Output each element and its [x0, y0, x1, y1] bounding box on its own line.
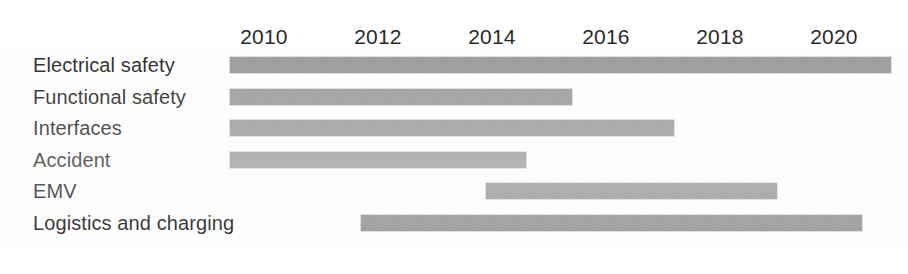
- gantt-bar-logistics-and-charging: [361, 215, 863, 231]
- gantt-bar-electrical-safety: [230, 57, 891, 73]
- gantt-bar-interfaces: [230, 120, 675, 136]
- gantt-bar-functional-safety: [230, 89, 572, 105]
- gantt-chart: 201020122014201620182020 Electrical safe…: [0, 0, 908, 274]
- gantt-bar-accident: [230, 152, 526, 168]
- row-label-logistics-and-charging: Logistics and charging: [33, 208, 234, 238]
- gantt-row: Functional safety: [0, 82, 908, 112]
- gantt-rows: Electrical safetyFunctional safetyInterf…: [0, 0, 908, 274]
- gantt-row: Logistics and charging: [0, 208, 908, 238]
- row-label-electrical-safety: Electrical safety: [33, 50, 175, 80]
- row-label-interfaces: Interfaces: [33, 113, 122, 143]
- row-label-functional-safety: Functional safety: [33, 82, 186, 112]
- gantt-row: Electrical safety: [0, 50, 908, 80]
- gantt-row: Interfaces: [0, 113, 908, 143]
- gantt-bar-emv: [486, 183, 777, 199]
- gantt-row: Accident: [0, 145, 908, 175]
- row-label-accident: Accident: [33, 145, 111, 175]
- gantt-row: EMV: [0, 176, 908, 206]
- row-label-emv: EMV: [33, 176, 77, 206]
